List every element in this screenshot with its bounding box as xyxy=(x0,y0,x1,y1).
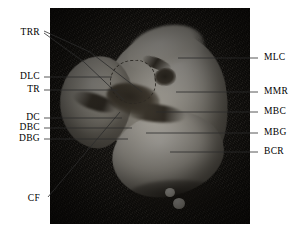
label-trr: TRR xyxy=(21,28,40,38)
label-cf: CF xyxy=(28,194,40,204)
label-mbg: MBG xyxy=(264,128,287,138)
label-bcr: BCR xyxy=(264,147,284,157)
figure-container: TRRDLCTRDCDBCDBGCF MLCMMRMBCMBGBCR xyxy=(0,0,302,234)
specimen-photograph xyxy=(50,8,250,224)
label-tr: TR xyxy=(27,85,40,95)
label-dbc: DBC xyxy=(20,123,40,133)
photo-vignette xyxy=(50,8,250,224)
label-mlc: MLC xyxy=(264,53,286,63)
label-mmr: MMR xyxy=(264,87,288,97)
label-dlc: DLC xyxy=(20,72,40,82)
label-dbg: DBG xyxy=(19,134,40,144)
label-mbc: MBC xyxy=(264,107,286,117)
